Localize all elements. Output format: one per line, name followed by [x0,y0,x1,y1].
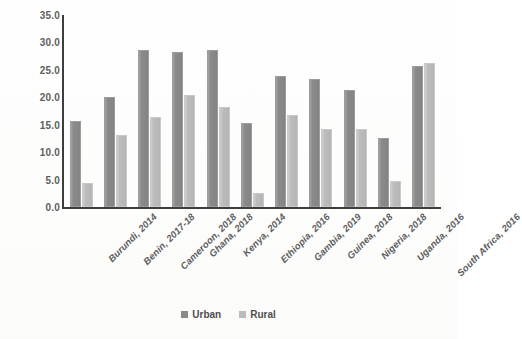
bar-rural [253,193,264,207]
legend-label-urban: Urban [192,309,221,320]
legend-item-urban: Urban [181,309,221,320]
bar-rural [321,129,332,207]
y-axis: 0.05.010.015.020.025.030.035.0 [24,0,60,339]
bar-group [270,15,304,207]
x-axis: Burundi, 2014Benin, 2017-18Cameroon, 201… [64,209,441,305]
bar-group [98,15,132,207]
bar-group [372,15,406,207]
bar-rural [390,181,401,207]
bar-urban [104,97,115,207]
y-axis-tick-label: 30.0 [24,37,60,48]
bar-urban [309,79,320,207]
bar-rural [184,95,195,207]
bar-urban [412,66,423,207]
bar-urban [138,50,149,207]
bar-group [201,15,235,207]
bar-rural [82,183,93,207]
bar-rural [424,63,435,207]
bar-rural [356,129,367,207]
bar-rural [116,135,127,207]
bar-urban [207,50,218,207]
bar-urban [275,76,286,207]
bar-group [235,15,269,207]
bar-group [167,15,201,207]
legend-swatch-urban-icon [181,311,188,318]
y-axis-tick-label: 25.0 [24,64,60,75]
y-axis-tick-label: 35.0 [24,10,60,21]
y-axis-tick-label: 10.0 [24,147,60,158]
bar-group [338,15,372,207]
bar-urban [241,123,252,207]
y-axis-tick-label: 0.0 [24,202,60,213]
bar-rural [287,115,298,207]
bar-urban [344,90,355,207]
bar-rural [150,117,161,208]
bar-group [133,15,167,207]
chart-legend: Urban Rural [0,309,457,320]
x-axis-tick-label: South Africa, 2016 [455,211,522,278]
bar-group [407,15,441,207]
bar-urban [172,52,183,207]
bar-urban [378,138,389,207]
bar-group [64,15,98,207]
legend-swatch-rural-icon [239,311,246,318]
legend-item-rural: Rural [239,309,276,320]
bar-rural [219,107,230,207]
y-axis-tick-label: 15.0 [24,119,60,130]
bar-group [304,15,338,207]
y-axis-tick-label: 5.0 [24,174,60,185]
plot-area [64,15,441,207]
y-axis-tick-label: 20.0 [24,92,60,103]
bar-urban [70,121,81,207]
legend-label-rural: Rural [250,309,276,320]
